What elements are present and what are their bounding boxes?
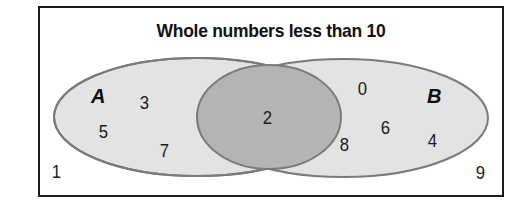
element-5: 5 [99,122,108,141]
element-4: 4 [428,131,437,150]
element-2: 2 [263,108,272,127]
element-3: 3 [140,93,149,112]
set-a-label: A [91,86,105,106]
element-0: 0 [358,79,367,98]
element-8: 8 [340,135,349,154]
element-6: 6 [381,118,390,137]
set-b-label: B [427,86,441,106]
element-9: 9 [476,163,485,182]
diagram-title: Whole numbers less than 10 [57,20,486,42]
element-7: 7 [160,141,169,160]
element-1: 1 [52,162,61,181]
